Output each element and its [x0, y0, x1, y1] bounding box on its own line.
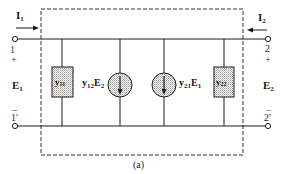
y11-label: y11 — [55, 78, 65, 87]
y12e2-label: y12E2 — [82, 78, 104, 90]
figure-caption: (a) — [133, 160, 144, 170]
port2-terminal-2prime-label: 2′ — [264, 113, 271, 123]
port2-plus-sign: + — [265, 55, 271, 65]
voltage-label-e2: E2 — [263, 80, 274, 93]
y22-label: y22 — [216, 78, 227, 87]
current-arrow-i2 — [247, 28, 267, 33]
port1-terminal-1prime-label: 1′ — [11, 113, 18, 123]
terminal-1 — [12, 36, 17, 41]
terminal-2 — [265, 36, 270, 41]
two-port-y-parameter-circuit: I1 1 + E1 − 1′ I2 2 + E2 − 2′ y11 y22 y1… — [0, 0, 282, 174]
port2-terminal-2-label: 2 — [265, 44, 270, 54]
terminal-1-prime — [12, 123, 17, 128]
current-arrow-i1 — [16, 26, 39, 31]
terminal-2-prime — [265, 123, 270, 128]
current-source-y21e1 — [152, 73, 176, 97]
current-label-i2: I2 — [258, 12, 266, 25]
port1-plus-sign: + — [11, 55, 17, 65]
voltage-label-e1: E1 — [12, 80, 23, 93]
y21e1-label: y21E1 — [179, 78, 201, 90]
current-label-i1: I1 — [16, 10, 24, 23]
current-source-y12e2 — [108, 73, 132, 97]
circuit-schematic — [0, 0, 282, 174]
